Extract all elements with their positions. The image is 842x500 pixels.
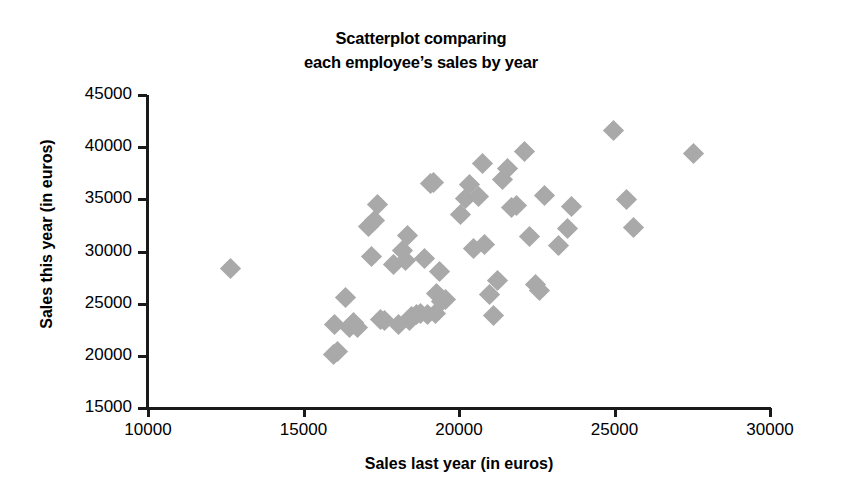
y-tick-mark bbox=[138, 355, 147, 358]
scatter-point bbox=[335, 287, 356, 308]
y-tick-label: 15000 bbox=[0, 397, 132, 417]
x-tick-label: 30000 bbox=[715, 420, 825, 440]
x-tick-mark bbox=[303, 408, 306, 417]
y-tick-label: 20000 bbox=[0, 345, 132, 365]
y-tick-mark bbox=[138, 407, 147, 410]
x-tick-label: 15000 bbox=[249, 420, 359, 440]
scatter-point bbox=[683, 142, 704, 163]
x-tick-mark bbox=[614, 408, 617, 417]
scatter-point bbox=[561, 196, 582, 217]
x-tick-mark bbox=[769, 408, 772, 417]
scatter-point bbox=[414, 248, 435, 269]
scatter-point bbox=[623, 217, 644, 238]
y-tick-mark bbox=[138, 146, 147, 149]
x-axis-title: Sales last year (in euros) bbox=[148, 455, 770, 473]
scatter-point bbox=[483, 305, 504, 326]
chart-title-line-1: Scatterplot comparing bbox=[0, 26, 842, 50]
scatter-point bbox=[514, 141, 535, 162]
scatter-point bbox=[534, 185, 555, 206]
x-tick-label: 10000 bbox=[93, 420, 203, 440]
scatter-point bbox=[616, 189, 637, 210]
x-tick-mark bbox=[458, 408, 461, 417]
y-tick-mark bbox=[138, 94, 147, 97]
y-tick-label: 35000 bbox=[0, 188, 132, 208]
scatter-point bbox=[361, 246, 382, 267]
scatter-point bbox=[519, 226, 540, 247]
scatter-point bbox=[603, 120, 624, 141]
scatterplot-figure: Scatterplot comparing each employee’s sa… bbox=[0, 0, 842, 500]
scatter-point bbox=[429, 261, 450, 282]
chart-title: Scatterplot comparing each employee’s sa… bbox=[0, 26, 842, 74]
y-tick-mark bbox=[138, 198, 147, 201]
x-tick-label: 20000 bbox=[404, 420, 514, 440]
y-tick-mark bbox=[138, 251, 147, 254]
y-tick-label: 40000 bbox=[0, 136, 132, 156]
plot-area bbox=[148, 95, 770, 408]
x-tick-label: 25000 bbox=[560, 420, 670, 440]
scatter-point bbox=[367, 194, 388, 215]
y-tick-label: 45000 bbox=[0, 84, 132, 104]
y-tick-mark bbox=[138, 303, 147, 306]
y-tick-label: 25000 bbox=[0, 293, 132, 313]
y-axis-title: Sales this year (in euros) bbox=[38, 84, 56, 384]
scatter-point bbox=[450, 204, 471, 225]
chart-title-line-2: each employee’s sales by year bbox=[0, 50, 842, 74]
scatter-point bbox=[472, 153, 493, 174]
x-tick-mark bbox=[147, 408, 150, 417]
scatter-point bbox=[219, 258, 240, 279]
y-tick-label: 30000 bbox=[0, 241, 132, 261]
